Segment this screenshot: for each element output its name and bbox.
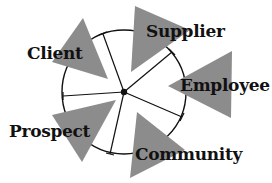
label-client: Client (27, 45, 83, 62)
label-employee: Employee (180, 77, 270, 94)
stakeholder-diagram: Client Supplier Employee Prospect Commun… (0, 0, 272, 183)
spoke-client (103, 34, 124, 92)
label-community: Community (135, 146, 242, 163)
label-prospect: Prospect (9, 123, 90, 140)
label-supplier: Supplier (146, 23, 225, 40)
center-hub (121, 89, 127, 95)
spoke-employee (124, 92, 182, 117)
spoke-prospect (63, 92, 124, 96)
